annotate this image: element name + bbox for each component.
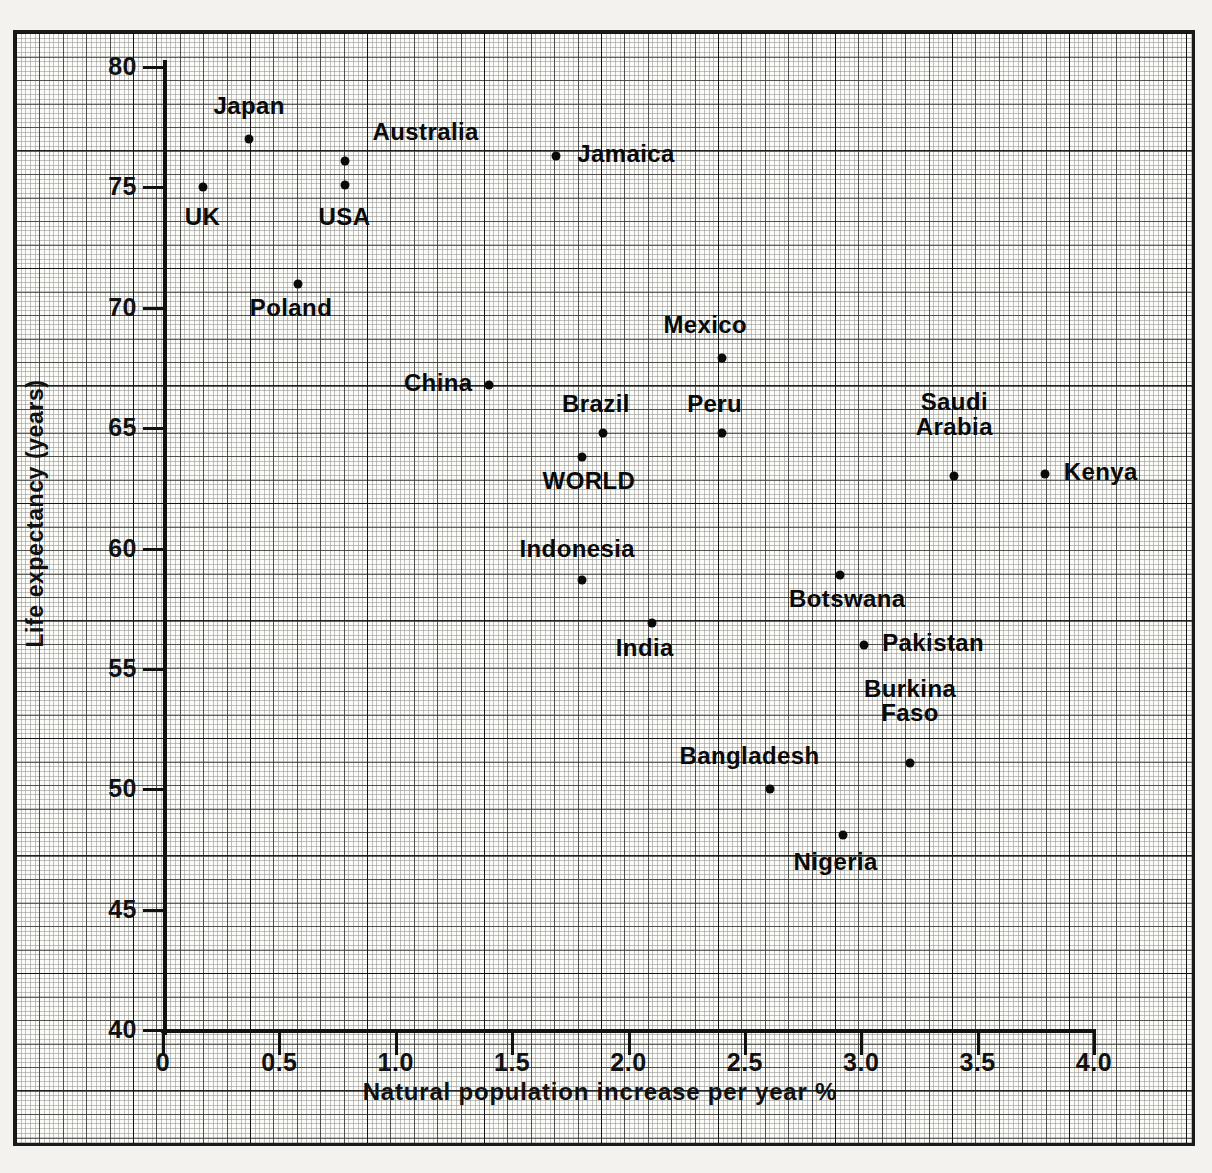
grid-fine-lines bbox=[16, 33, 1192, 1143]
graph-paper-sheet bbox=[13, 30, 1195, 1146]
grid-medium-lines bbox=[16, 33, 1192, 1143]
grid-major-lines bbox=[16, 33, 1192, 1143]
chart-page: 807570656055504540 00.51.01.52.02.53.03.… bbox=[0, 0, 1212, 1173]
